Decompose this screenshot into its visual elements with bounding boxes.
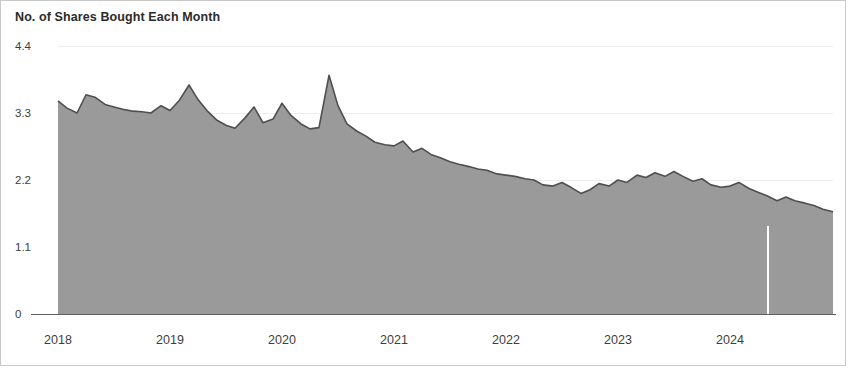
page-title: No. of Shares Bought Each Month — [15, 10, 220, 24]
plot-area — [58, 46, 833, 314]
y-axis-tick-label: 3.3 — [15, 107, 51, 119]
x-axis-tick-label: 2021 — [380, 333, 408, 347]
x-axis-tick-label: 2022 — [492, 333, 520, 347]
x-axis-tick-label: 2020 — [268, 333, 296, 347]
area-series — [58, 46, 833, 314]
chart-figure: No. of Shares Bought Each Month 01.12.23… — [0, 0, 846, 366]
x-axis-tick-label: 2019 — [156, 333, 184, 347]
x-axis-line — [31, 314, 836, 315]
y-axis-tick-label: 0 — [15, 308, 51, 320]
x-axis-tick-label: 2024 — [716, 333, 744, 347]
area-fill — [58, 75, 833, 314]
x-axis-tick-label: 2018 — [44, 333, 72, 347]
y-axis-tick-label: 4.4 — [15, 40, 51, 52]
forecast-divider-line — [767, 226, 769, 359]
y-axis-tick-label: 1.1 — [15, 241, 51, 253]
y-axis-tick-label: 2.2 — [15, 174, 51, 186]
x-axis-tick-label: 2023 — [604, 333, 632, 347]
